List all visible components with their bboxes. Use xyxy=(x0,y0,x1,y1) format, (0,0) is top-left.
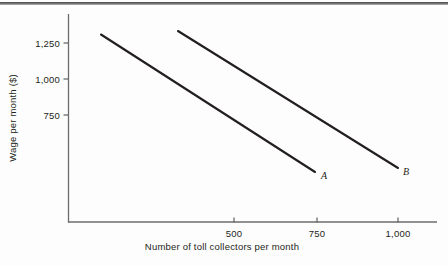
series-label-b: B xyxy=(403,166,409,177)
series-label-a: A xyxy=(321,170,327,181)
y-tick-label-1000: 1,000 xyxy=(20,74,60,85)
x-tick-label-750: 750 xyxy=(309,228,325,239)
x-tick-label-1000: 1,000 xyxy=(386,228,411,239)
plot-area xyxy=(0,0,448,266)
series-line-b xyxy=(178,31,398,168)
series-line-a xyxy=(101,35,315,173)
y-tick-label-750: 750 xyxy=(20,110,60,121)
y-axis-title: Wage per month ($) xyxy=(7,74,18,162)
chart-figure: 1,250 1,000 750 500 750 1,000 Number of … xyxy=(0,0,448,266)
x-tick-label-500: 500 xyxy=(226,228,242,239)
y-tick-label-1250: 1,250 xyxy=(20,38,60,49)
x-axis-title: Number of toll collectors per month xyxy=(145,241,299,252)
